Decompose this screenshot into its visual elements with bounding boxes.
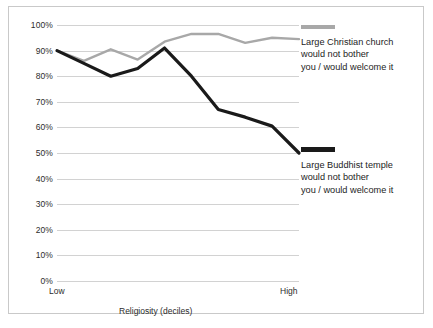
chart-figure: 100%90%80%70%60%50%40%30%20%10%0% Low Hi… [8,6,424,314]
x-tick-high: High [280,287,297,296]
y-tick-label: 50% [36,149,53,158]
series-line [57,34,299,61]
y-tick-label: 10% [36,251,53,260]
y-tick-label: 0% [41,277,54,286]
y-tick-label: 80% [36,72,53,81]
series-lines [57,25,299,281]
legend-label-buddhist-temple: Large Buddhist temple would not bother y… [301,159,423,197]
series-line [57,48,299,153]
legend-item-buddhist-temple: Large Buddhist temple would not bother y… [301,147,423,196]
legend-swatch-buddhist-temple [301,147,335,152]
y-tick-label: 90% [36,47,53,56]
y-axis-labels: 100%90%80%70%60%50%40%30%20%10%0% [9,7,53,307]
y-tick-label: 30% [36,200,53,209]
y-tick-label: 20% [36,226,53,235]
gridline [57,281,299,282]
plot-area [57,25,299,281]
y-tick-label: 40% [36,175,53,184]
x-tick-low: Low [49,287,65,296]
legend-swatch-christian-church [301,25,335,29]
legend-label-christian-church: Large Christian church would not bother … [301,36,423,74]
x-axis-title: Religiosity (deciles) [119,307,192,316]
legend-item-christian-church: Large Christian church would not bother … [301,25,423,73]
y-tick-label: 70% [36,98,53,107]
y-tick-label: 60% [36,123,53,132]
y-tick-label: 100% [31,21,53,30]
